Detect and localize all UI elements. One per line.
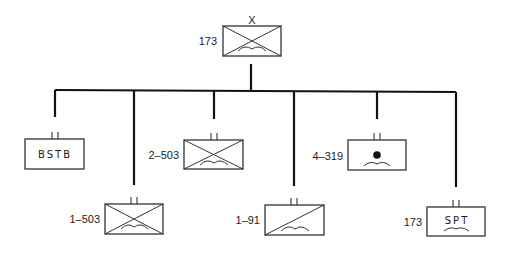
- unit-root-173[interactable]: X 173: [199, 14, 281, 56]
- echelon-battalion-ii: [211, 133, 217, 140]
- unit-4-319[interactable]: 4–319: [312, 133, 406, 170]
- echelon-battalion-ii: [52, 132, 58, 139]
- connector-lines: [55, 64, 456, 187]
- unit-designation: 173: [199, 35, 217, 47]
- org-chart: X 173 BSTB 2–503 4–319: [0, 0, 513, 255]
- cavalry-slash-icon: [265, 205, 324, 235]
- horizontal-bus: [55, 90, 456, 92]
- unit-designation: 173: [404, 216, 422, 228]
- echelon-battalion-ii: [291, 198, 297, 205]
- unit-designation: 4–319: [312, 150, 343, 162]
- unit-designation: 1–503: [69, 213, 100, 225]
- airborne-wings-icon: [444, 228, 469, 231]
- unit-1-503[interactable]: 1–503: [69, 197, 163, 234]
- infantry-cross-icon: [223, 26, 281, 56]
- airborne-wings-icon: [364, 162, 390, 166]
- airborne-wings-icon: [121, 225, 148, 229]
- unit-bstb[interactable]: BSTB: [25, 132, 84, 169]
- echelon-brigade-x: X: [248, 14, 256, 26]
- unit-1-91[interactable]: 1–91: [236, 198, 324, 235]
- echelon-battalion-ii: [453, 200, 459, 207]
- airborne-wings-icon: [281, 227, 309, 231]
- unit-173-spt[interactable]: 173 SPT: [404, 200, 485, 236]
- unit-designation: 2–503: [148, 149, 179, 161]
- echelon-battalion-ii: [374, 133, 380, 140]
- echelon-battalion-ii: [131, 197, 137, 204]
- unit-text: BSTB: [38, 149, 72, 160]
- infantry-cross-icon: [184, 140, 243, 169]
- artillery-dot-icon: [373, 151, 381, 159]
- unit-text: SPT: [445, 215, 470, 226]
- airborne-wings-icon: [200, 161, 228, 165]
- airborne-wings-icon: [238, 47, 266, 51]
- unit-2-503[interactable]: 2–503: [148, 133, 243, 169]
- unit-designation: 1–91: [236, 214, 260, 226]
- infantry-cross-icon: [105, 204, 163, 234]
